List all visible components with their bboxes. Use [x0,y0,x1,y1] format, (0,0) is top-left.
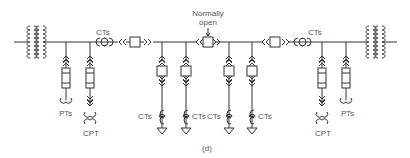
fuse-icon [318,68,326,88]
pt-label: PTs [341,109,354,118]
feeder-4: CTs [247,42,272,134]
normally-open-label-2: open [199,18,217,27]
feeder-2: CTs [181,42,206,134]
breaker-icon [130,37,140,47]
breaker-icon [181,66,191,76]
ct-label: CTs [192,112,206,121]
ct-label: CTs [96,28,110,37]
right-pt-feeder: PTs [340,42,354,118]
breaker-icon [270,37,280,47]
ground-icon [157,128,167,134]
fuse-icon [342,68,350,88]
pt-label: PTs [59,109,72,118]
left-cpt-feeder: CPT [83,42,99,138]
cpt-coil-icon [316,112,327,117]
ground-icon [247,128,257,134]
right-tie-breaker [262,37,289,47]
cpt-coil-icon [84,112,95,117]
breaker-icon [203,37,213,47]
right-transformer [366,26,397,58]
left-pt-feeder: PTs [59,42,72,118]
ct-label: CTs [308,28,322,37]
right-bus-ct: CTs [294,28,322,46]
ground-icon [224,128,234,134]
ground-icon [181,128,191,134]
fuse-icon [62,68,70,88]
ct-label: CTs [258,112,272,121]
cpt-label: CPT [83,129,99,138]
breaker-icon [247,66,257,76]
breaker-icon [157,66,167,76]
normally-open-label: Normally [192,9,224,18]
ct-label: CTs [207,112,221,121]
switchgear-one-line-diagram: CTs Normally open CTs [0,0,410,158]
left-bus-ct: CTs [96,28,113,46]
fuse-icon [86,68,94,88]
ct-label: CTs [138,112,152,121]
figure-caption: (d) [202,144,212,153]
cpt-label: CPT [315,129,331,138]
left-transformer [14,26,46,58]
right-cpt-feeder: CPT [315,42,331,138]
breaker-icon [224,66,234,76]
left-tie-breaker [119,37,151,47]
feeder-1: CTs [138,42,167,134]
feeder-3: CTs [207,42,234,134]
normally-open-breaker: Normally open [192,9,224,47]
